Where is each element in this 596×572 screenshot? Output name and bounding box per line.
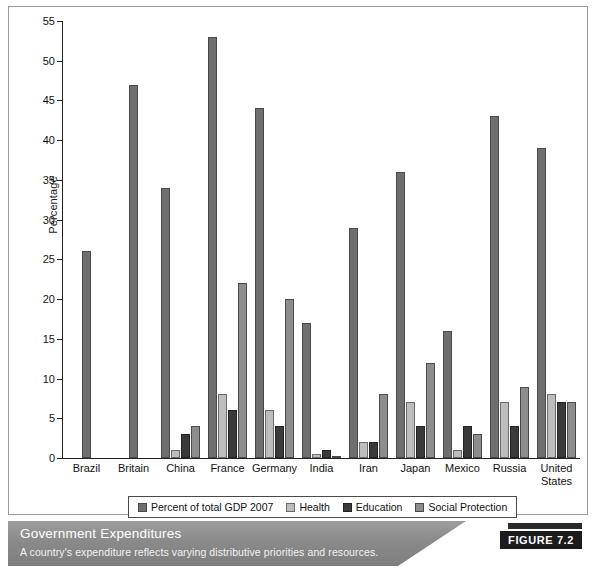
- bar: [312, 454, 321, 458]
- bar: [547, 394, 556, 458]
- bar: [161, 188, 170, 458]
- bar: [332, 456, 341, 458]
- x-tick-label: Japan: [392, 462, 439, 475]
- bar: [463, 426, 472, 458]
- chart-plot-frame: Percentage 0510152025303540455055 Brazil…: [8, 6, 588, 515]
- bar: [473, 434, 482, 458]
- bar: [510, 426, 519, 458]
- legend-swatch-icon: [343, 503, 352, 512]
- bar: [520, 387, 529, 459]
- bar: [557, 402, 566, 458]
- bar: [500, 402, 509, 458]
- bar: [396, 172, 405, 458]
- y-tick-label: 55: [9, 21, 55, 22]
- bar: [82, 251, 91, 458]
- y-tick-label: 25: [9, 259, 55, 260]
- y-tick-label: 40: [9, 140, 55, 141]
- y-axis-title: Percentage: [47, 145, 59, 265]
- bar: [490, 116, 499, 458]
- bar-group: [486, 21, 533, 458]
- y-tick-label: 15: [9, 339, 55, 340]
- bar-group: [533, 21, 580, 458]
- x-axis-line: [62, 458, 580, 459]
- bar-group: [392, 21, 439, 458]
- bar-group: [298, 21, 345, 458]
- legend-item: Percent of total GDP 2007: [138, 501, 273, 513]
- bar: [349, 228, 358, 458]
- figure-container: Percentage 0510152025303540455055 Brazil…: [0, 0, 596, 572]
- bar-group: [204, 21, 251, 458]
- bar: [322, 450, 331, 458]
- bar: [369, 442, 378, 458]
- legend-label: Health: [299, 501, 329, 513]
- bar: [191, 426, 200, 458]
- legend-item: Health: [286, 501, 329, 513]
- bar: [567, 402, 576, 458]
- y-tick-label: 35: [9, 180, 55, 181]
- legend-label: Education: [356, 501, 403, 513]
- legend-item: Education: [343, 501, 403, 513]
- bar: [265, 410, 274, 458]
- y-tick-label: 10: [9, 379, 55, 380]
- bar: [275, 426, 284, 458]
- bar: [228, 410, 237, 458]
- bar-group: [345, 21, 392, 458]
- y-tick-label: 5: [9, 418, 55, 419]
- bar: [406, 402, 415, 458]
- bar: [238, 283, 247, 458]
- bar: [537, 148, 546, 458]
- bar: [208, 37, 217, 458]
- x-tick-label: UnitedStates: [533, 462, 580, 487]
- bar: [218, 394, 227, 458]
- bar: [302, 323, 311, 458]
- x-tick-label: Mexico: [439, 462, 486, 475]
- legend-swatch-icon: [415, 503, 424, 512]
- x-tick-label: China: [157, 462, 204, 475]
- bar: [359, 442, 368, 458]
- legend-label: Percent of total GDP 2007: [151, 501, 273, 513]
- bar: [171, 450, 180, 458]
- chart-legend: Percent of total GDP 2007HealthEducation…: [128, 496, 517, 518]
- x-tick-label: Russia: [486, 462, 533, 475]
- caption-subtitle: A country's expenditure reflects varying…: [20, 546, 378, 558]
- y-tick-label: 45: [9, 100, 55, 101]
- chart-bars-area: [63, 21, 580, 458]
- y-tick-label: 30: [9, 220, 55, 221]
- legend-swatch-icon: [138, 503, 147, 512]
- bar: [453, 450, 462, 458]
- x-tick-label: France: [204, 462, 251, 475]
- y-tick-label: 0: [9, 458, 55, 459]
- legend-label: Social Protection: [428, 501, 507, 513]
- legend-swatch-icon: [286, 503, 295, 512]
- figure-badge: FIGURE 7.2: [500, 531, 582, 549]
- bar: [181, 434, 190, 458]
- bar: [129, 85, 138, 458]
- bar: [426, 363, 435, 458]
- x-tick-label: India: [298, 462, 345, 475]
- x-tick-label: Britain: [110, 462, 157, 475]
- x-tick-label: Iran: [345, 462, 392, 475]
- bar: [416, 426, 425, 458]
- bar-group: [157, 21, 204, 458]
- y-tick-label: 50: [9, 61, 55, 62]
- caption-bar: Government Expenditures A country's expe…: [8, 521, 588, 566]
- bar: [379, 394, 388, 458]
- bar: [255, 108, 264, 458]
- caption-title: Government Expenditures: [20, 526, 181, 541]
- bar: [443, 331, 452, 458]
- bar-group: [251, 21, 298, 458]
- figure-badge-cap: [508, 523, 582, 529]
- y-tick-label: 20: [9, 299, 55, 300]
- x-tick-label: Germany: [251, 462, 298, 475]
- legend-item: Social Protection: [415, 501, 507, 513]
- x-tick-label: Brazil: [63, 462, 110, 475]
- bar-group: [63, 21, 110, 458]
- bar-group: [439, 21, 486, 458]
- bar: [285, 299, 294, 458]
- bar-group: [110, 21, 157, 458]
